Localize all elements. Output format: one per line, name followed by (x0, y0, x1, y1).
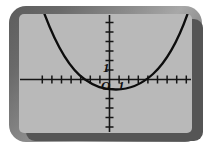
parabola-curve (45, 14, 188, 90)
graph-screen: 1 O 1 (19, 14, 192, 133)
figure-container: 1 O 1 (0, 0, 215, 155)
origin-label: O (101, 79, 110, 92)
x-axis-unit-label: 1 (118, 79, 125, 92)
y-axis-unit-label: 1 (103, 61, 110, 74)
